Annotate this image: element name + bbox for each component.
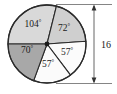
geometry-figure: 104° 72° 57° 57° 70° 16 xyxy=(0,0,117,94)
center-point xyxy=(45,42,50,47)
dimension-arrow-bottom xyxy=(92,78,97,84)
dimension-arrow-top xyxy=(92,5,97,11)
circle-sectors-diagram: 104° 72° 57° 57° 70° 16 xyxy=(0,0,117,94)
diameter-label: 16 xyxy=(101,39,111,50)
